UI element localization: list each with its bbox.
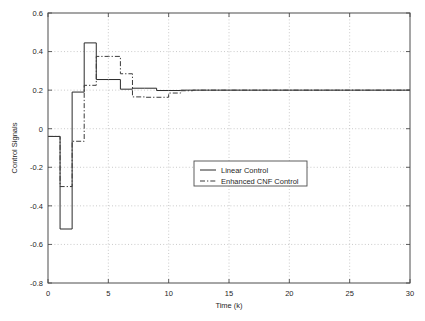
x-tick-label-3: 15 <box>225 289 233 298</box>
y-tick-label-3: -0.2 <box>30 163 43 172</box>
legend-label-0: Linear Control <box>221 166 268 175</box>
x-tick-label-0: 0 <box>46 289 50 298</box>
chart-legend[interactable]: Linear ControlEnhanced CNF Control <box>194 161 307 186</box>
y-tick-label-7: 0.6 <box>33 9 43 18</box>
y-tick-label-0: -0.8 <box>30 279 43 288</box>
x-tick-label-2: 10 <box>164 289 172 298</box>
legend-label-1: Enhanced CNF Control <box>221 177 299 186</box>
x-tick-label-4: 20 <box>285 289 293 298</box>
y-tick-label-5: 0.2 <box>33 86 43 95</box>
y-tick-label-2: -0.4 <box>30 202 43 211</box>
y-tick-label-1: -0.6 <box>30 240 43 249</box>
figure-canvas: 051015202530 -0.8-0.6-0.4-0.200.20.40.6 … <box>0 0 425 321</box>
y-axis-title: Control Signals <box>10 122 19 173</box>
x-axis-title: Time (k) <box>215 301 243 310</box>
y-tick-label-4: 0 <box>39 125 43 134</box>
y-tick-label-6: 0.4 <box>33 47 43 56</box>
x-tick-label-5: 25 <box>345 289 353 298</box>
x-tick-label-6: 30 <box>406 289 414 298</box>
control-signals-chart: 051015202530 -0.8-0.6-0.4-0.200.20.40.6 … <box>0 0 425 321</box>
x-tick-label-1: 5 <box>106 289 110 298</box>
